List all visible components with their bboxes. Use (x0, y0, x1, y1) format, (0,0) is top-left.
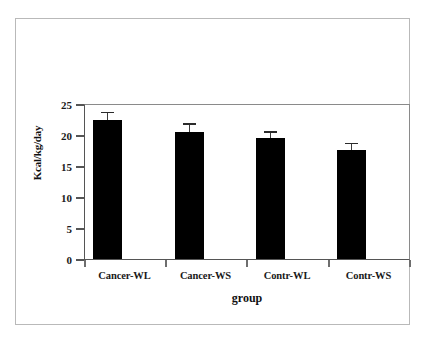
error-bar-cap-contr-wl (264, 131, 277, 133)
y-tick-mark-20 (76, 135, 84, 137)
y-tick-label-0: 0 (50, 255, 72, 266)
y-tick-mark-5 (76, 228, 84, 230)
y-tick-mark-10 (76, 197, 84, 199)
bar-contr-ws (337, 150, 366, 259)
x-tick-mark-left-edge (84, 260, 86, 267)
x-category-label-contr-wl: Contr-WL (246, 270, 328, 281)
bar-contr-wl (256, 138, 285, 259)
y-tick-label-10: 10 (50, 193, 72, 204)
y-axis-title: Kcal/kg/day (31, 98, 43, 208)
x-tick-mark-1 (165, 260, 167, 267)
x-tick-mark-2 (246, 260, 248, 267)
error-bar-cap-cancer-ws (183, 123, 196, 125)
y-tick-mark-15 (76, 166, 84, 168)
y-tick-label-5: 5 (50, 224, 72, 235)
x-tick-mark-right-edge (409, 260, 411, 267)
x-category-label-contr-ws: Contr-WS (328, 270, 409, 281)
x-category-label-cancer-ws: Cancer-WS (165, 270, 246, 281)
plot-area (84, 104, 410, 260)
bar-cancer-wl (93, 120, 122, 259)
y-tick-label-20: 20 (50, 131, 72, 142)
x-category-label-cancer-wl: Cancer-WL (84, 270, 165, 281)
error-bar-cap-cancer-wl (101, 112, 114, 114)
y-tick-label-25: 25 (50, 100, 72, 111)
error-bar-cap-contr-ws (345, 143, 358, 145)
bar-cancer-ws (175, 132, 204, 259)
y-tick-label-15: 15 (50, 162, 72, 173)
x-tick-mark-3 (328, 260, 330, 267)
y-tick-mark-0 (76, 259, 84, 261)
y-tick-mark-25 (76, 104, 84, 106)
x-axis-title: group (84, 291, 410, 306)
figure-outer-frame: 25 20 15 10 5 0 Kcal/kg/day C (15, 18, 410, 325)
